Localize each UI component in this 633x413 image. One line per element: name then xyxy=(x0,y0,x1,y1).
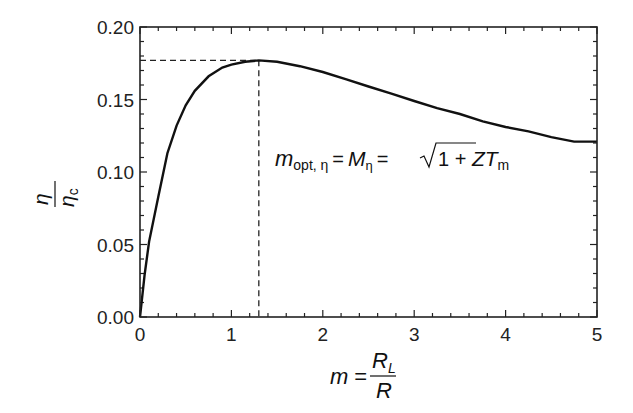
annotation-m: m xyxy=(275,146,293,171)
annotation-eq1: = xyxy=(332,148,344,170)
efficiency-chart: 012345 0.000.050.100.150.20 mopt, η=Mη= … xyxy=(0,0,633,413)
annotation-formula: mopt, η=Mη= 1 + ZTm xyxy=(275,143,509,173)
xlabel-m: m xyxy=(330,364,348,389)
svg-text:m=: m= xyxy=(330,364,367,389)
x-axis-label: m= RL R xyxy=(330,348,396,403)
ylabel-numerator: η xyxy=(29,193,52,205)
x-tick-label: 3 xyxy=(409,324,420,345)
y-tick-label: 0.10 xyxy=(97,162,134,183)
annotation-ZT: ZT xyxy=(471,147,500,170)
x-tick-labels: 012345 xyxy=(135,324,603,345)
x-tick-label: 4 xyxy=(500,324,511,345)
ylabel-denominator-sub: c xyxy=(65,188,81,195)
annotation-M-sub: η xyxy=(366,158,373,173)
annotation-sqrt-body: 1 + xyxy=(438,148,472,170)
svg-text:1 + ZTm: 1 + ZTm xyxy=(438,147,509,173)
annotation-M: M xyxy=(348,147,366,170)
reference-lines xyxy=(140,60,259,317)
x-tick-label: 1 xyxy=(226,324,237,345)
x-tick-label: 2 xyxy=(318,324,329,345)
annotation-m-sub: opt, η xyxy=(293,157,328,173)
svg-text:ηc: ηc xyxy=(55,188,81,207)
y-tick-label: 0.05 xyxy=(97,235,134,256)
xlabel-denominator: R xyxy=(376,378,392,403)
y-axis-label: η ηc xyxy=(29,181,81,207)
x-tick-label: 5 xyxy=(592,324,603,345)
series-line-efficiency xyxy=(140,60,597,317)
annotation-ZT-sub: m xyxy=(498,157,510,173)
y-tick-label: 0.00 xyxy=(97,307,134,328)
xlabel-eq: = xyxy=(354,364,367,389)
annotation-eq2: = xyxy=(377,148,389,170)
xlabel-numerator: RL xyxy=(372,348,396,376)
svg-text:mopt, η=Mη=: mopt, η=Mη= xyxy=(275,146,388,173)
x-tick-label: 0 xyxy=(135,324,146,345)
ylabel-denominator: η xyxy=(55,195,78,207)
y-tick-label: 0.20 xyxy=(97,17,134,38)
y-tick-label: 0.15 xyxy=(97,90,134,111)
y-tick-labels: 0.000.050.100.150.20 xyxy=(97,17,134,328)
